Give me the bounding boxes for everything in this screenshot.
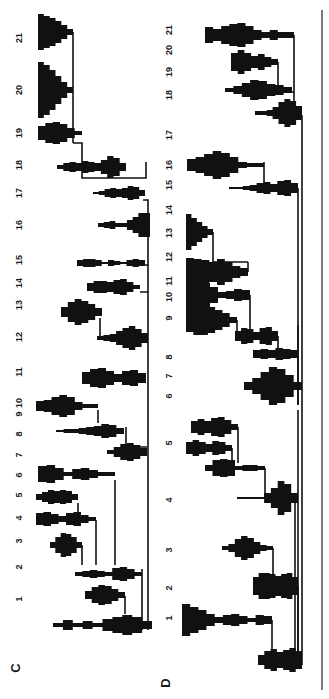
glyph-c10 — [36, 395, 98, 417]
glyph-d1 — [258, 648, 302, 672]
connector-line — [292, 35, 294, 92]
column-label: 9 — [14, 411, 24, 416]
glyph-c4 — [50, 533, 82, 557]
glyph-c3 — [75, 567, 142, 581]
glyph-d17 — [187, 151, 264, 179]
glyph-c6 — [36, 490, 78, 504]
column-label: 18 — [14, 160, 24, 170]
glyph-c13 — [61, 299, 102, 325]
column-label: 15 — [14, 255, 24, 265]
column-label: 14 — [14, 278, 24, 288]
column-label: 8 — [164, 354, 174, 359]
column-label: 17 — [164, 130, 174, 140]
glyph-c17 — [93, 186, 145, 200]
column-label: 12 — [164, 252, 174, 262]
column-label: 20 — [14, 85, 24, 95]
column-label: 11 — [14, 367, 24, 377]
panel-c-glyphs — [36, 14, 152, 635]
column-label: 21 — [164, 25, 174, 35]
glyph-c8 — [107, 443, 147, 461]
connector-line — [124, 162, 146, 178]
panel-d-column-labels: 123456789101112131415161718192021 — [164, 25, 174, 621]
panel-letter-c: C — [8, 663, 23, 673]
column-label: 6 — [164, 393, 174, 398]
column-label: 13 — [164, 228, 174, 238]
column-label: 10 — [14, 398, 24, 408]
glyph-d18 — [255, 99, 302, 127]
glyph-d11 — [235, 327, 278, 345]
glyph-d4 — [222, 536, 273, 560]
glyph-c9 — [56, 424, 124, 438]
glyph-d5 — [237, 481, 298, 515]
column-label: 13 — [14, 300, 24, 310]
column-label: 5 — [14, 492, 24, 497]
column-label: 14 — [164, 205, 174, 215]
column-label: 17 — [14, 188, 24, 198]
column-label: 2 — [14, 564, 24, 569]
glyph-c21 — [38, 14, 73, 50]
panel-d: 123456789101112131415161718192021 D — [158, 23, 302, 688]
column-label: 7 — [14, 452, 24, 457]
column-label: 19 — [14, 128, 24, 138]
column-label: 16 — [14, 220, 24, 230]
column-label: 3 — [14, 538, 24, 543]
glyph-c16 — [98, 213, 150, 237]
column-label: 4 — [164, 497, 174, 502]
glyph-d21 — [205, 23, 294, 47]
glyph-d9 — [244, 367, 302, 405]
glyph-c1 — [53, 615, 152, 635]
glyph-c14 — [87, 279, 140, 295]
column-label: 21 — [14, 33, 24, 43]
glyph-c18 — [57, 156, 126, 178]
column-label: 19 — [164, 67, 174, 77]
panel-c-column-labels: 123456789101112131415161718192021 — [14, 33, 24, 602]
column-label: 5 — [164, 440, 174, 445]
glyph-c7 — [38, 465, 115, 483]
glyph-c19 — [38, 122, 82, 144]
column-label: 2 — [164, 585, 174, 590]
glyph-c20 — [38, 62, 73, 118]
column-label: 6 — [14, 472, 24, 477]
glyph-c11 — [82, 368, 146, 388]
glyph-c5 — [36, 512, 96, 526]
connector-line — [213, 232, 248, 262]
glyph-c12 — [97, 326, 148, 350]
glyph-d20 — [231, 50, 278, 74]
glyph-d15 — [186, 214, 213, 250]
column-label: 7 — [164, 373, 174, 378]
figure-c-d-rotated: 123456789101112131415161718192021 C 1234… — [0, 0, 329, 699]
column-label: 9 — [164, 315, 174, 320]
panel-letter-d: D — [158, 678, 173, 687]
connector-line — [140, 265, 148, 292]
glyph-d8 — [191, 417, 238, 437]
column-label: 16 — [164, 160, 174, 170]
glyph-c2 — [85, 585, 125, 605]
column-label: 1 — [14, 596, 24, 601]
glyph-d12 — [186, 305, 237, 335]
column-label: 1 — [164, 615, 174, 620]
column-label: 10 — [164, 292, 174, 302]
glyph-d3 — [253, 573, 298, 599]
column-label: 20 — [164, 45, 174, 55]
glyph-d16 — [229, 180, 298, 196]
glyph-d19 — [225, 80, 292, 100]
column-label: 4 — [14, 515, 24, 520]
column-label: 18 — [164, 90, 174, 100]
panel-d-glyphs — [182, 23, 302, 672]
glyph-d6 — [205, 459, 265, 477]
glyph-d7 — [186, 440, 232, 456]
glyph-c15 — [77, 259, 145, 267]
column-label: 11 — [164, 276, 174, 286]
column-label: 12 — [14, 332, 24, 342]
glyph-d2 — [182, 604, 272, 636]
column-label: 3 — [164, 547, 174, 552]
panel-c: 123456789101112131415161718192021 C — [8, 14, 152, 673]
column-label: 8 — [14, 431, 24, 436]
glyph-d10 — [253, 348, 298, 360]
column-label: 15 — [164, 180, 174, 190]
